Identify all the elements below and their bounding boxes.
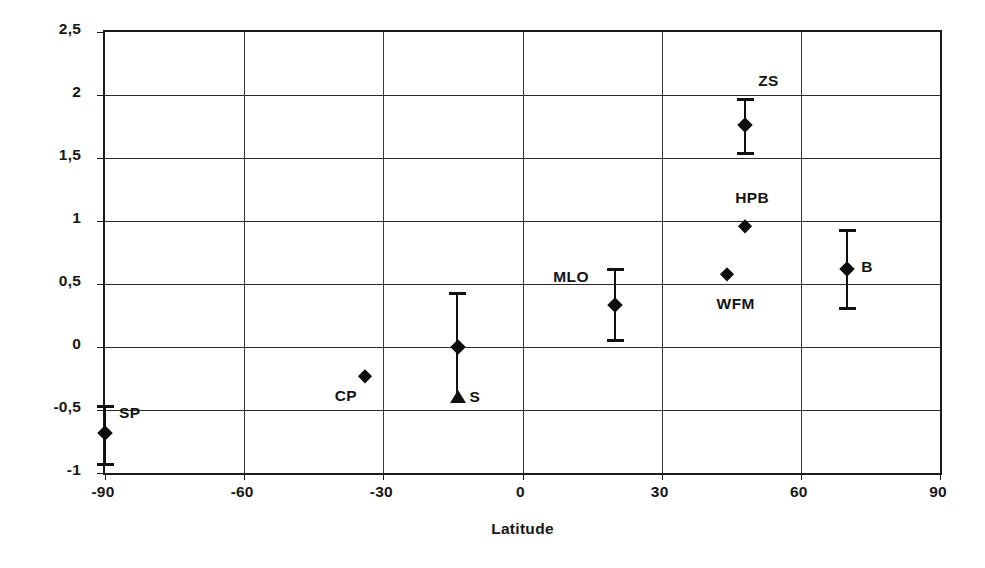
- error-bar-cap-upper: [737, 98, 754, 101]
- x-axis-title: Latitude: [103, 520, 942, 538]
- y-axis-tick-label: 1,5: [59, 146, 81, 164]
- marker-diamond: [607, 298, 623, 314]
- chart-figure: Trend [% / yr] -1-0,500,511,522,5 SPCPSM…: [0, 0, 985, 568]
- y-axis-tick: [97, 32, 105, 33]
- data-point-label-hpb: HPB: [735, 189, 769, 207]
- error-bar-cap-upper: [607, 268, 624, 271]
- error-bar-cap-upper: [449, 292, 466, 295]
- marker-diamond: [839, 261, 855, 277]
- error-bar-cap-lower: [737, 152, 754, 155]
- marker-diamond: [737, 117, 753, 133]
- x-axis-tick-label: 30: [651, 483, 669, 501]
- x-axis-tick: [940, 473, 941, 480]
- gridline-vertical: [523, 32, 524, 473]
- y-axis-tick-label: 2,5: [59, 20, 81, 38]
- x-axis-tick: [662, 473, 663, 480]
- error-bar-cap-lower: [839, 307, 856, 310]
- y-axis-tick-label: 0: [72, 335, 81, 353]
- data-point-label-mlo: MLO: [553, 268, 589, 286]
- x-axis-tick-label: -60: [231, 483, 254, 501]
- x-axis-tick: [523, 473, 524, 480]
- data-point-label-s: S: [470, 388, 481, 406]
- y-axis-tick-labels: -1-0,500,511,522,5: [0, 30, 89, 475]
- x-axis-tick-label: -90: [91, 483, 114, 501]
- gridline-vertical: [383, 32, 384, 473]
- y-axis-tick: [97, 473, 105, 474]
- error-bar-cap-upper: [97, 405, 114, 408]
- x-axis-tick-label: 90: [929, 483, 947, 501]
- marker-diamond: [720, 267, 733, 280]
- data-point-label-wfm: WFM: [717, 295, 755, 313]
- y-axis-tick: [97, 284, 105, 285]
- x-axis-tick: [105, 473, 106, 480]
- y-axis-tick: [97, 221, 105, 222]
- marker-diamond: [450, 339, 466, 355]
- y-axis-tick-label: -0,5: [53, 398, 81, 416]
- x-axis-tick-label: 60: [790, 483, 808, 501]
- marker-diamond: [358, 369, 371, 382]
- marker-diamond: [97, 425, 113, 441]
- gridline-vertical: [801, 32, 802, 473]
- y-axis-tick-label: 1: [72, 209, 81, 227]
- error-bar-cap-lower: [97, 463, 114, 466]
- x-axis-tick: [244, 473, 245, 480]
- y-axis-tick: [97, 95, 105, 96]
- error-bar-cap-lower: [607, 339, 624, 342]
- gridline-vertical: [244, 32, 245, 473]
- y-axis-tick: [97, 158, 105, 159]
- gridline-vertical: [662, 32, 663, 473]
- y-axis-tick: [97, 347, 105, 348]
- y-axis-tick-label: -1: [67, 461, 81, 479]
- x-axis-tick-label: -30: [370, 483, 393, 501]
- data-point-label-sp: SP: [119, 404, 140, 422]
- x-axis-tick-label: 0: [516, 483, 525, 501]
- x-axis-tick-labels: -90-60-300306090: [103, 483, 942, 507]
- x-axis-tick: [383, 473, 384, 480]
- data-point-label-cp: CP: [335, 387, 357, 405]
- data-point-label-b: B: [861, 258, 873, 276]
- y-axis-tick-label: 2: [72, 83, 81, 101]
- plot-area: SPCPSMLOWFMHPBZSB: [103, 30, 942, 475]
- error-bar-cap-upper: [839, 229, 856, 232]
- y-axis-tick-label: 0,5: [59, 272, 81, 290]
- data-point-label-zs: ZS: [758, 72, 779, 90]
- x-axis-tick: [801, 473, 802, 480]
- error-bar-cap-lower: [450, 390, 466, 403]
